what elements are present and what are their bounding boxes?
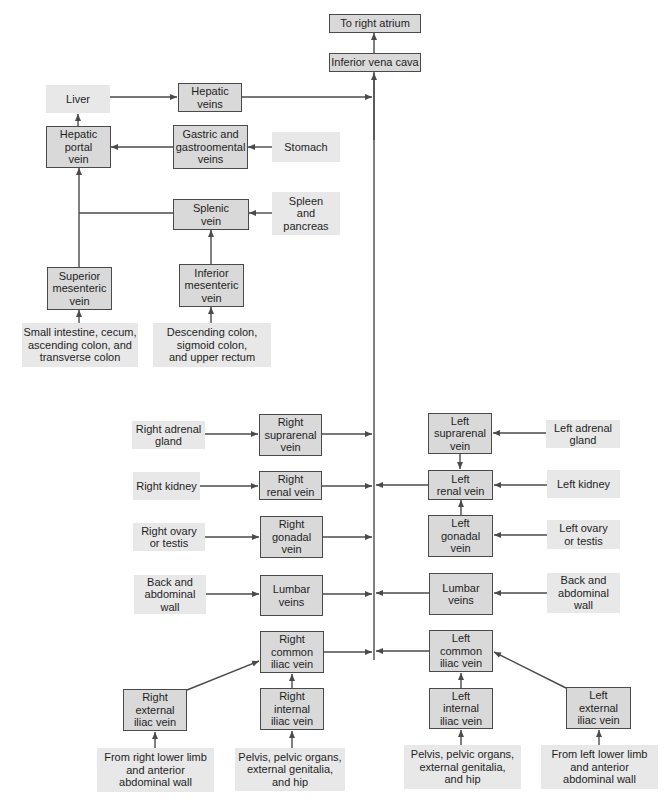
connector-lines	[0, 0, 666, 806]
right-ovary-testis-box: Right ovary or testis	[133, 523, 205, 551]
spleen-pancreas-box: Spleen and pancreas	[272, 192, 340, 235]
left-lower-limb-box: From left lower limb and anterior abdomi…	[541, 745, 658, 789]
right-renal-vein-box: Right renal vein	[259, 471, 322, 500]
right-lower-limb-box: From right lower limb and anterior abdom…	[97, 748, 214, 792]
right-suprarenal-vein-box: Right suprarenal vein	[259, 414, 322, 456]
superior-mesenteric-vein-box: Superior mesenteric vein	[47, 267, 112, 310]
left-lumbar-veins-box: Lumbar veins	[429, 573, 493, 615]
small-intestine-box: Small intestine, cecum, ascending colon,…	[22, 323, 138, 367]
left-suprarenal-vein-box: Left suprarenal vein	[428, 413, 492, 454]
left-internal-iliac-vein-box: Left internal iliac vein	[429, 688, 493, 729]
inferior-mesenteric-vein-box: Inferior mesenteric vein	[179, 264, 244, 307]
left-kidney-box: Left kidney	[547, 470, 620, 498]
right-atrium-box: To right atrium	[329, 14, 421, 33]
right-adrenal-gland-box: Right adrenal gland	[132, 421, 205, 449]
right-pelvis-box: Pelvis, pelvic organs, external genitali…	[235, 748, 345, 791]
hepatic-veins-box: Hepatic veins	[178, 83, 242, 112]
stomach-box: Stomach	[272, 132, 340, 162]
liver-box: Liver	[46, 85, 110, 113]
left-adrenal-gland-box: Left adrenal gland	[546, 420, 620, 448]
descending-colon-box: Descending colon, sigmoid colon, and upp…	[153, 323, 271, 367]
right-back-abdominal-wall-box: Back and abdominal wall	[134, 575, 206, 614]
left-common-iliac-vein-box: Left common iliac vein	[429, 630, 493, 672]
hepatic-portal-vein-box: Hepatic portal vein	[46, 126, 111, 168]
right-kidney-box: Right kidney	[133, 472, 200, 500]
left-ovary-testis-box: Left ovary or testis	[547, 520, 620, 549]
right-common-iliac-vein-box: Right common iliac vein	[260, 631, 324, 673]
splenic-vein-box: Splenic vein	[173, 199, 249, 230]
inferior-vena-cava-box: Inferior vena cava	[329, 53, 421, 72]
left-pelvis-box: Pelvis, pelvic organs, external genitali…	[404, 745, 521, 789]
left-renal-vein-box: Left renal vein	[428, 470, 493, 500]
left-back-abdominal-wall-box: Back and abdominal wall	[547, 573, 620, 613]
right-internal-iliac-vein-box: Right internal iliac vein	[260, 688, 324, 730]
right-lumbar-veins-box: Lumbar veins	[260, 575, 323, 616]
gastric-gastroomental-veins-box: Gastric and gastroomental veins	[173, 125, 248, 169]
venous-drainage-diagram: To right atrium Inferior vena cava Liver…	[0, 0, 666, 806]
right-external-iliac-vein-box: Right external iliac vein	[123, 689, 187, 731]
left-external-iliac-vein-box: Left external iliac vein	[566, 687, 631, 729]
right-gonadal-vein-box: Right gonadal vein	[260, 516, 323, 558]
left-gonadal-vein-box: Left gonadal vein	[428, 515, 493, 557]
